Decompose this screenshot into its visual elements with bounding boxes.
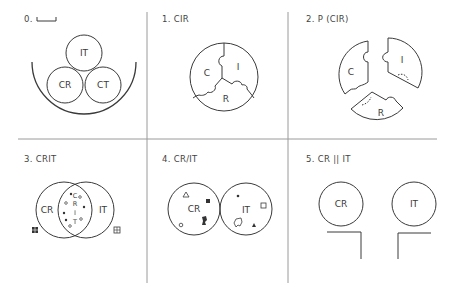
- divider-left: [193, 78, 222, 98]
- panel-2: 2. P (CIR) C I R: [306, 14, 422, 120]
- corner-bracket-left: [327, 232, 361, 259]
- panel-title: 3. CRIT: [24, 154, 57, 164]
- triangle-filled-icon: [252, 223, 256, 227]
- panel-title: 5. CR || IT: [306, 154, 351, 164]
- dot-filled-icon: [237, 195, 240, 198]
- panel-0: 0. IT CR CT: [24, 14, 136, 114]
- label-cr: CR: [335, 199, 348, 209]
- dotted-notch-i: [398, 74, 408, 80]
- dotted-notch-r: [362, 97, 371, 105]
- label-cr: CR: [41, 205, 54, 215]
- divider-top: [219, 43, 224, 78]
- outline-grid-icon: [114, 227, 120, 233]
- blob-filled-icon: [202, 216, 207, 225]
- square-filled-icon: [206, 199, 210, 203]
- container-icon: [37, 17, 56, 21]
- panel-5: 5. CR || IT CR IT: [306, 154, 436, 259]
- square-outline-icon: [261, 203, 266, 208]
- label-r: R: [73, 200, 78, 208]
- triangle-outline-icon: [183, 192, 189, 197]
- panel-title: 1. CIR: [162, 14, 189, 24]
- filled-grid-icon: [32, 227, 38, 233]
- label-c: C: [348, 67, 354, 77]
- label-i: I: [401, 55, 404, 65]
- panel-3: 3. CRIT CR IT C R I T: [24, 154, 120, 238]
- label-r: R: [223, 94, 229, 104]
- panel-1: 1. CIR C I R: [162, 14, 258, 111]
- label-r: R: [378, 108, 384, 118]
- diagram-canvas: 0. IT CR CT 1. CIR C I R 2. P (CIR) C I …: [0, 0, 453, 293]
- label-cr: CR: [59, 80, 72, 90]
- label-c: C: [73, 192, 78, 200]
- label-i: I: [237, 62, 240, 72]
- label-it: IT: [242, 205, 251, 215]
- corner-bracket-right: [398, 233, 431, 259]
- panel-title: 2. P (CIR): [306, 14, 349, 24]
- blob-outline-icon: [234, 218, 242, 227]
- label-cr: CR: [188, 204, 201, 214]
- panel-4: 4. CR/IT CR IT: [162, 154, 272, 235]
- label-i: I: [74, 209, 76, 217]
- panel-title: 4. CR/IT: [162, 154, 198, 164]
- circle-outline-icon: [179, 223, 183, 227]
- panel-title: 0.: [24, 14, 33, 24]
- label-c: C: [204, 68, 210, 78]
- label-it: IT: [410, 199, 419, 209]
- label-ct: CT: [97, 80, 109, 90]
- label-it: IT: [99, 205, 108, 215]
- label-it: IT: [80, 48, 89, 58]
- label-t: T: [72, 218, 77, 226]
